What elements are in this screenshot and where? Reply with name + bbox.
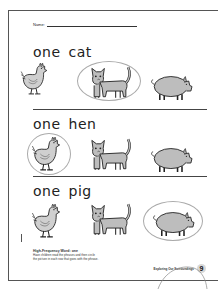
row-divider xyxy=(33,109,207,110)
pig-picture[interactable] xyxy=(147,143,197,173)
cat-picture[interactable] xyxy=(85,137,135,171)
phrase-one-pig: one pig xyxy=(33,184,92,198)
hen-picture[interactable] xyxy=(29,137,63,171)
row-divider xyxy=(33,176,207,177)
name-label: Name: xyxy=(33,22,45,27)
worksheet-page: Name: one cat one hen one pig High-Frequ… xyxy=(8,10,218,281)
hen-picture[interactable] xyxy=(29,204,63,238)
phrase-one-hen: one hen xyxy=(33,117,96,131)
decorative-curve xyxy=(150,262,210,289)
cat-picture[interactable] xyxy=(85,202,135,236)
hen-picture[interactable] xyxy=(19,63,49,95)
margin-mark xyxy=(21,234,22,242)
phrase-one-cat: one cat xyxy=(33,45,92,59)
teacher-notes: High-Frequency Word: one Have children r… xyxy=(33,249,98,261)
pig-picture[interactable] xyxy=(149,207,199,237)
name-field[interactable]: Name: xyxy=(33,22,137,27)
name-line[interactable] xyxy=(47,22,137,27)
notes-line: the picture in each row that goes with t… xyxy=(33,257,98,261)
cat-picture[interactable] xyxy=(85,65,135,99)
pig-picture[interactable] xyxy=(147,71,197,101)
